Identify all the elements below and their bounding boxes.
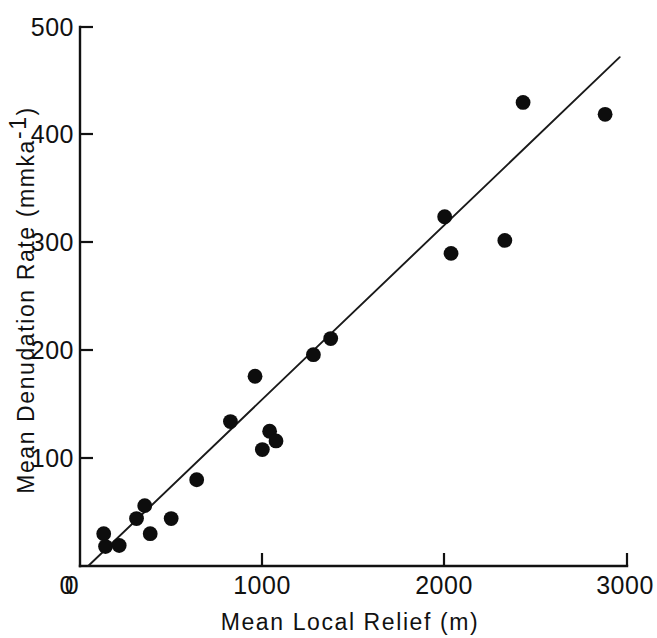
data-point: [112, 538, 127, 553]
data-point: [164, 511, 179, 526]
x-axis-ticks: [262, 553, 627, 566]
data-point: [96, 526, 111, 541]
data-point: [223, 414, 238, 429]
x-tick-label-3000: 3000: [596, 571, 654, 599]
plot-canvas: 500 400 300 200 100 0 0 1000 2000 3000 M…: [0, 0, 657, 638]
x-tick-label-1000: 1000: [233, 571, 291, 599]
data-point: [497, 233, 512, 248]
data-point: [98, 539, 113, 554]
y-tick-label-500: 500: [31, 13, 74, 41]
y-axis-title: Mean Denudation Rate (mmka-1): [5, 106, 39, 494]
y-axis-title-exponent: -1: [5, 115, 31, 139]
x-axis-title: Mean Local Relief (m): [221, 609, 480, 635]
data-point: [269, 434, 284, 449]
data-point: [323, 331, 338, 346]
y-axis-title-group: Mean Denudation Rate (mmka-1): [5, 106, 39, 494]
trendline: [88, 57, 620, 566]
data-point: [143, 526, 158, 541]
data-point: [306, 347, 321, 362]
y-axis-ticks: [80, 27, 93, 458]
data-point: [189, 472, 204, 487]
x-tick-labels: 0 1000 2000 3000: [65, 571, 654, 599]
data-point: [137, 498, 152, 513]
data-point: [255, 442, 270, 457]
data-point: [516, 95, 531, 110]
scatter-plot-figure: 500 400 300 200 100 0 0 1000 2000 3000 M…: [0, 0, 657, 638]
x-tick-label-2000: 2000: [415, 571, 473, 599]
x-tick-label-0: 0: [65, 571, 79, 599]
data-point: [129, 511, 144, 526]
data-point: [248, 369, 263, 384]
y-axis-title-main: Mean Denudation Rate (mmka: [13, 139, 39, 494]
data-point: [598, 107, 613, 122]
y-axis-title-suffix: ): [13, 106, 39, 115]
data-point: [444, 246, 459, 261]
data-point: [437, 209, 452, 224]
